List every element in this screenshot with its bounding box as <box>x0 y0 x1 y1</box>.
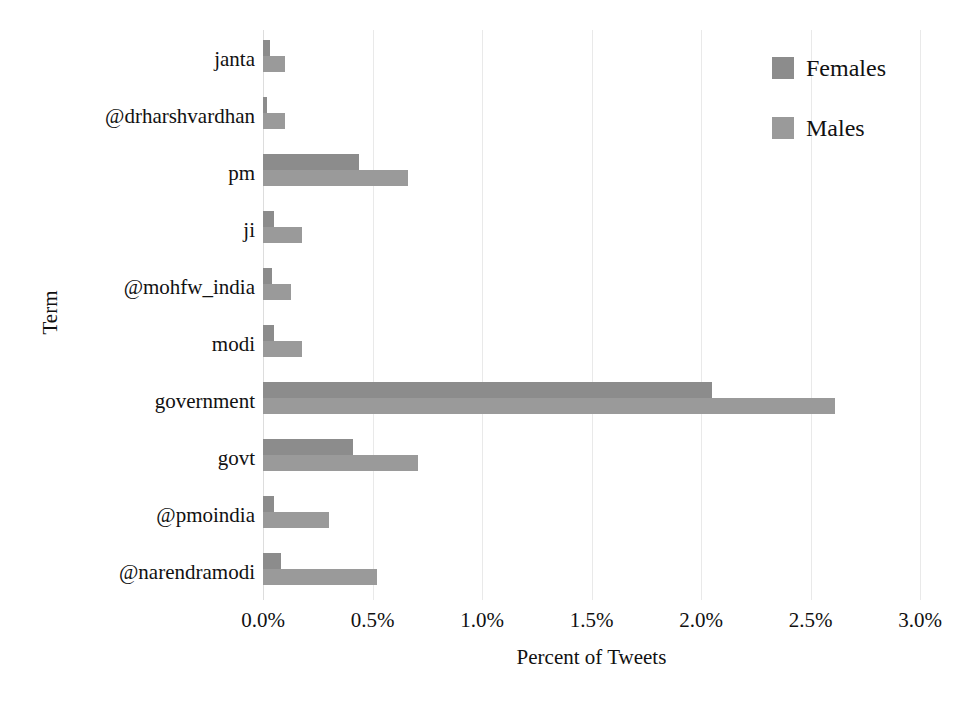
y-tick-label-ji: ji <box>5 219 255 241</box>
x-tick-label-10: 1.0% <box>422 608 542 633</box>
y-tick-label-modi: modi <box>5 333 255 355</box>
bar-males-janta <box>263 56 285 72</box>
bar-females-modi <box>263 325 274 341</box>
x-tick-label-30: 3.0% <box>860 608 962 633</box>
legend-label: Females <box>806 55 886 82</box>
bar-males-pmoindia <box>263 512 329 528</box>
legend-item-males[interactable]: Males <box>772 98 962 158</box>
bar-females-janta <box>263 40 270 56</box>
y-tick-label-janta: janta <box>5 48 255 70</box>
x-axis-title: Percent of Tweets <box>263 645 920 670</box>
bar-males-modi <box>263 341 302 357</box>
bar-males-govt <box>263 455 418 471</box>
bar-group <box>263 258 920 315</box>
y-tick-label-mohfw_india: @mohfw_india <box>5 276 255 298</box>
bar-females-pmoindia <box>263 496 274 512</box>
bar-group <box>263 543 920 600</box>
legend-swatch-icon <box>772 57 794 79</box>
bar-females-government <box>263 382 712 398</box>
bar-males-government <box>263 398 835 414</box>
bar-males-pm <box>263 170 408 186</box>
y-tick-label-pm: pm <box>5 162 255 184</box>
x-tick-label-25: 2.5% <box>751 608 871 633</box>
legend-swatch-icon <box>772 117 794 139</box>
bar-females-mohfw_india <box>263 268 272 284</box>
bar-males-ji <box>263 227 302 243</box>
y-tick-label-pmoindia: @pmoindia <box>5 504 255 526</box>
bar-group <box>263 315 920 372</box>
bar-group <box>263 201 920 258</box>
y-tick-label-govt: govt <box>5 447 255 469</box>
x-tick-label-00: 0.0% <box>203 608 323 633</box>
y-tick-label-narendramodi: @narendramodi <box>5 561 255 583</box>
bar-males-drharshvardhan <box>263 113 285 129</box>
bar-chart-figure: Term janta@drharshvardhanpmji@mohfw_indi… <box>0 0 962 709</box>
bar-group <box>263 372 920 429</box>
legend-label: Males <box>806 115 865 142</box>
bar-females-drharshvardhan <box>263 97 267 113</box>
x-tick-label-05: 0.5% <box>313 608 433 633</box>
bar-females-pm <box>263 154 359 170</box>
bar-group <box>263 429 920 486</box>
y-tick-label-government: government <box>5 390 255 412</box>
bar-males-mohfw_india <box>263 284 291 300</box>
bar-males-narendramodi <box>263 569 377 585</box>
bar-females-ji <box>263 211 274 227</box>
y-axis-tick-labels: janta@drharshvardhanpmji@mohfw_indiamodi… <box>0 30 255 600</box>
legend-item-females[interactable]: Females <box>772 38 962 98</box>
bar-group <box>263 486 920 543</box>
y-tick-label-drharshvardhan: @drharshvardhan <box>5 105 255 127</box>
x-tick-label-20: 2.0% <box>641 608 761 633</box>
chart-legend: FemalesMales <box>772 38 962 158</box>
bar-females-govt <box>263 439 353 455</box>
bar-females-narendramodi <box>263 553 281 569</box>
x-tick-label-15: 1.5% <box>532 608 652 633</box>
